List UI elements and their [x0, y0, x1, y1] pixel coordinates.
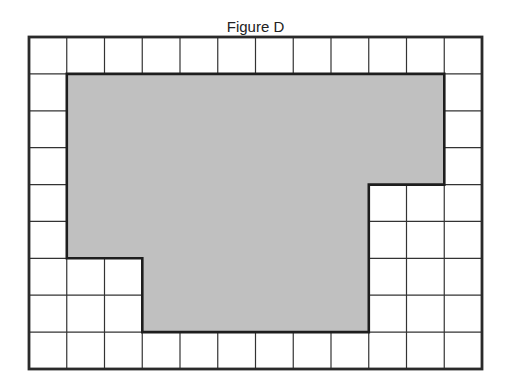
- grid-figure: [0, 0, 505, 386]
- shaded-region-cover: [67, 74, 445, 332]
- grid-lines: [29, 37, 482, 369]
